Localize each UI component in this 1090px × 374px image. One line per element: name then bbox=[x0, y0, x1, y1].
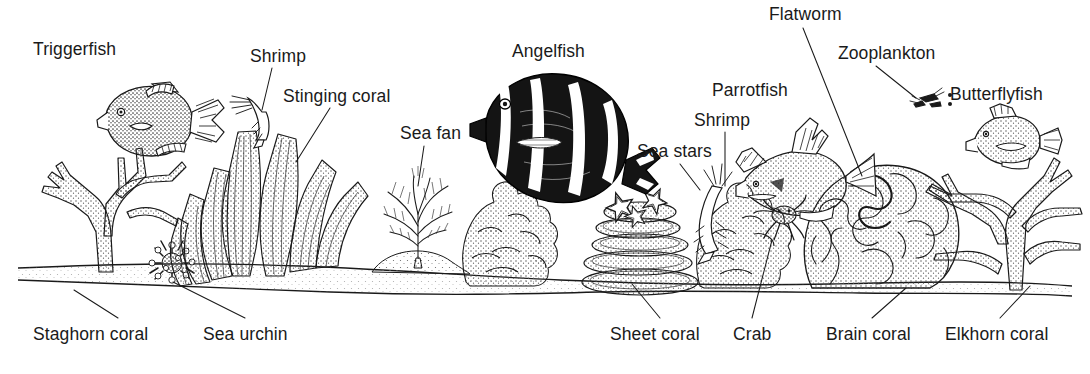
leader-sea-fan bbox=[418, 146, 424, 186]
label-elkhorn-coral: Elkhorn coral bbox=[945, 325, 1048, 344]
stinging-coral-art bbox=[170, 131, 368, 286]
label-butterflyfish: Butterflyfish bbox=[950, 85, 1043, 104]
label-parrotfish: Parrotfish bbox=[712, 81, 788, 100]
label-brain-coral: Brain coral bbox=[826, 325, 911, 344]
angelfish-art bbox=[470, 74, 660, 203]
label-sheet-coral: Sheet coral bbox=[610, 325, 700, 344]
butterflyfish-art bbox=[966, 104, 1062, 169]
triggerfish-art bbox=[97, 82, 224, 156]
leader-shrimp-left bbox=[262, 68, 272, 110]
label-crab: Crab bbox=[733, 325, 771, 344]
label-zooplankton: Zooplankton bbox=[838, 44, 935, 63]
coral-reef-diagram: Triggerfish Shrimp Stinging coral Sea fa… bbox=[0, 0, 1090, 374]
label-sea-fan: Sea fan bbox=[400, 124, 461, 143]
label-flatworm: Flatworm bbox=[769, 5, 842, 24]
label-shrimp-left: Shrimp bbox=[250, 47, 306, 66]
zooplankton-art bbox=[910, 88, 952, 107]
label-shrimp-right: Shrimp bbox=[694, 111, 750, 130]
sea-fan-art bbox=[384, 166, 452, 268]
label-stinging-coral: Stinging coral bbox=[283, 87, 390, 106]
label-staghorn-coral: Staghorn coral bbox=[33, 325, 148, 344]
leader-sea-stars bbox=[680, 164, 700, 190]
label-angelfish: Angelfish bbox=[512, 42, 585, 61]
label-sea-urchin: Sea urchin bbox=[203, 325, 288, 344]
staghorn-coral-art bbox=[42, 148, 186, 272]
label-sea-stars: Sea stars bbox=[637, 142, 712, 161]
leader-stinging-coral bbox=[296, 108, 330, 162]
leader-staghorn-coral bbox=[74, 290, 118, 318]
label-triggerfish: Triggerfish bbox=[33, 40, 116, 59]
leader-zooplankton bbox=[876, 66, 916, 98]
